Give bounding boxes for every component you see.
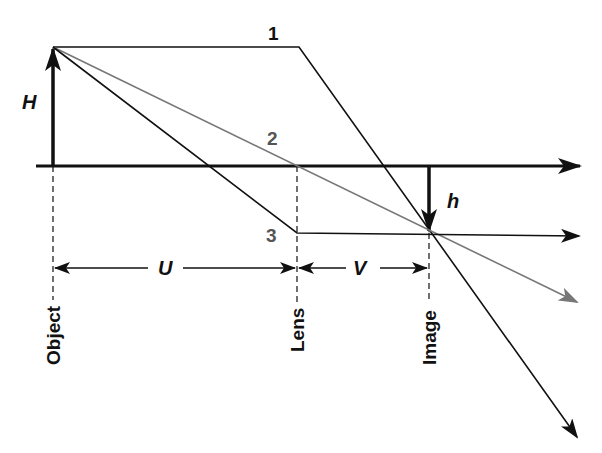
label-ray-3: 3 xyxy=(266,225,277,246)
label-object: Object xyxy=(43,305,64,365)
label-image: Image xyxy=(419,310,440,365)
ray-3 xyxy=(53,47,579,236)
label-image-height: h xyxy=(447,190,459,212)
label-dimension-v: V xyxy=(353,257,368,279)
label-object-height: H xyxy=(22,91,37,113)
label-ray-2: 2 xyxy=(267,128,278,149)
ray-2 xyxy=(53,47,577,302)
label-lens: Lens xyxy=(287,308,308,352)
label-dimension-u: U xyxy=(158,257,173,279)
ray-1 xyxy=(53,47,577,437)
lens-ray-diagram: H h U V 1 2 3 Object Lens Image xyxy=(0,0,602,453)
label-ray-1: 1 xyxy=(268,23,279,44)
